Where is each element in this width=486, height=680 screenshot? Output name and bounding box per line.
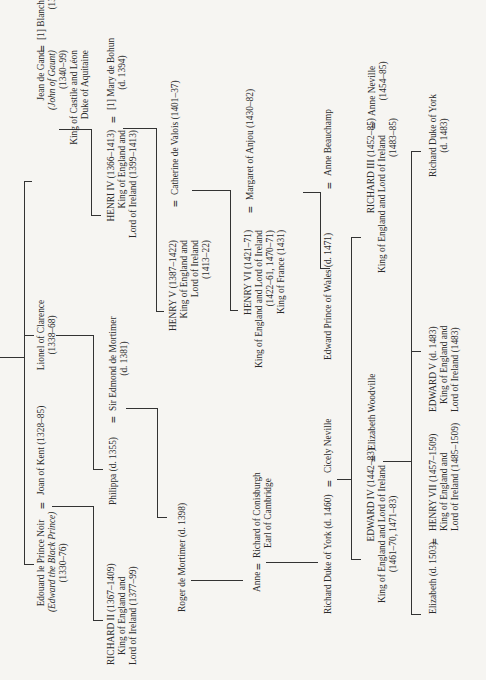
marriage-symbol: = [368, 455, 380, 462]
line-bp-richard2-v [93, 506, 94, 621]
marriage-symbol: = [108, 116, 120, 123]
marriage-symbol: = [429, 538, 441, 545]
person-anne: Anne [252, 572, 263, 592]
person-philippa: Philippa (d. 1355) [108, 437, 119, 505]
line-henry6-epw-v [320, 192, 321, 268]
marriage-symbol: = [108, 416, 120, 423]
line-richard3 [351, 237, 361, 238]
person-edward-iv: EDWARD IV (1442–83) King of England and … [366, 448, 399, 620]
line-lionel-philippa-v [93, 335, 94, 469]
line-york-children [337, 479, 351, 480]
line-bp-richard2 [52, 506, 93, 507]
person-jean-de-gand: Jean de Gand (John of Gaunt) (1340–99) K… [36, 50, 91, 200]
person-elizabeth-york: Elizabeth (d. 1503) [428, 542, 439, 614]
line-henri4 [91, 215, 101, 216]
line-elizabeth [411, 614, 421, 615]
line-henry6-epw [303, 192, 320, 193]
person-henry-vii: HENRY VII (1457–1509) King of England an… [428, 411, 461, 531]
line-henri4-henry5-v [156, 128, 157, 311]
person-edward-black-prince: Edouard le Prince Noir (Edward the Black… [36, 514, 69, 612]
marriage-symbol: = [170, 200, 182, 207]
person-henry-vi: HENRY VI (1421–71) King of England and L… [243, 230, 287, 400]
person-edward-v: EDWARD V (d. 1483) King of England and L… [428, 297, 461, 412]
line-roger-anne [191, 580, 243, 581]
line-edward4 [351, 559, 361, 560]
person-joan-of-kent: Joan of Kent (1328–85) [36, 406, 47, 495]
trunk-line [0, 357, 24, 358]
marriage-symbol: = [324, 182, 336, 189]
line-henry5-henry6 [192, 190, 230, 191]
edward4-children-spine [411, 151, 412, 614]
marriage-symbol: = [37, 502, 49, 509]
genealogy-chart: Jean de Gand (John of Gaunt) (1340–99) K… [0, 0, 486, 680]
person-anne-neville: Anne Neville (1454–85) [367, 46, 389, 116]
person-henri-iv: HENRI IV (1366–1413) King of England and… [106, 130, 139, 260]
person-anne-beauchamp: Anne Beauchamp [323, 109, 334, 176]
person-blanche: [1] Blanche of Lancaster (1345–69) [36, 0, 58, 40]
line-edward5 [411, 351, 421, 352]
person-henry-v: HENRY V (1387–1422) King of England and … [168, 240, 212, 340]
person-richard-york: Richard Duke of York (d. 1460) [323, 494, 334, 614]
person-roger-mortimer: Roger de Mortimer (d. 1398) [177, 503, 188, 612]
line-gaunt-henri4-v [91, 129, 92, 215]
marriage-symbol: = [368, 122, 380, 129]
branch-black-prince [24, 564, 34, 565]
line-lionel-philippa [56, 335, 93, 336]
person-edward-prince-wales: Edward Prince of Wales (d. 1471) [323, 233, 334, 360]
person-margaret: Margaret of Anjou (1430–82) [245, 89, 256, 200]
person-richard-ii: RICHARD II (1367–1409) King of England a… [106, 550, 139, 665]
marriage-symbol: = [245, 206, 257, 213]
line-richard-duke-york [411, 151, 421, 152]
marriage-symbol: = [37, 45, 49, 52]
person-mary-bohun: [1] Mary de Bohun (d. 1394) [106, 35, 128, 110]
line-henry5 [156, 311, 164, 312]
person-richard-iii: RICHARD III (1452–85) King of England an… [366, 118, 399, 290]
person-richard-duke-york-1483: Richard Duke of York (d. 1483) [428, 88, 450, 183]
branch-lionel [24, 335, 34, 336]
person-cicely: Cicely Neville [323, 419, 334, 473]
line-anne-york [266, 562, 318, 563]
branch-gaunt [24, 181, 32, 182]
york-children-spine [351, 237, 352, 559]
line-richard2 [93, 620, 103, 621]
line-henry6 [230, 310, 238, 311]
line-roger [157, 517, 167, 518]
person-catherine: Catherine de Valois (1401–37) [170, 80, 181, 195]
marriage-symbol: = [253, 563, 265, 570]
line-edmond-roger-v [157, 408, 158, 517]
line-philippa [93, 469, 103, 470]
marriage-symbol: = [324, 480, 336, 487]
person-richard-conisburgh: Richard of Conisburgh Earl of Cambridge [252, 468, 274, 558]
person-lionel: Lionel of Clarence (1338–68) [36, 295, 58, 375]
line-edmond-roger [126, 408, 157, 409]
person-elizabeth-woodville: Elizabeth Woodville [367, 374, 378, 450]
line-henry5-henry6-v [230, 190, 231, 310]
person-edmond-mortimer: Sir Edmond de Mortimer (d. 1381) [108, 306, 130, 411]
sons-spine [24, 181, 25, 564]
